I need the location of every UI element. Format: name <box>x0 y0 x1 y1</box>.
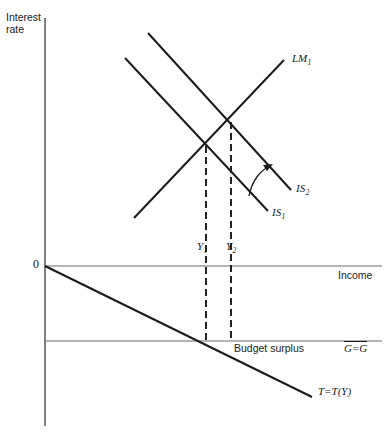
is1-curve-label: IS1 <box>272 206 285 218</box>
is1-label-text: IS <box>272 206 281 218</box>
x-axis-title: Income <box>338 270 372 282</box>
budget-surplus-label: Budget surplus <box>234 343 304 355</box>
lm1-curve-label: LM1 <box>292 52 311 64</box>
lm1-label-subscript: 1 <box>308 58 312 67</box>
y-axis-title-line2: rate <box>6 24 41 36</box>
lm1-label-text: LM <box>292 52 307 64</box>
y1-tick-label: Y1 <box>197 240 207 252</box>
y-axis-title: Interest rate <box>6 12 41 36</box>
tax-function-label: T=T(Y) <box>318 385 351 397</box>
y-axis-title-line1: Interest <box>6 12 41 24</box>
origin-label: 0 <box>33 258 39 271</box>
diagram-canvas <box>0 0 389 435</box>
y1-label-subscript: 1 <box>203 246 207 255</box>
is1-curve <box>125 58 268 211</box>
is1-label-subscript: 1 <box>281 212 285 221</box>
is2-label-subscript: 2 <box>305 188 309 197</box>
is2-curve-label: IS2 <box>296 182 309 194</box>
is-lm-budget-surplus-figure: Interest rate 0 Income LM1 IS2 IS1 Y1 Y2… <box>0 0 389 435</box>
lm1-curve <box>134 60 284 218</box>
tax-function-line <box>45 266 312 397</box>
y2-tick-label: Y2 <box>226 240 236 252</box>
government-spending-label: G=G <box>344 341 367 354</box>
y2-label-subscript: 2 <box>232 246 236 255</box>
is2-label-text: IS <box>296 182 305 194</box>
